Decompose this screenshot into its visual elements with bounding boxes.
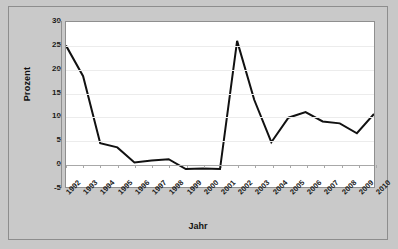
x-tick-mark [238,165,239,168]
gridline [66,94,374,95]
x-tick-mark [359,165,360,168]
x-tick-mark [307,165,308,168]
x-tick-mark [187,165,188,168]
y-tick-mark [57,21,61,22]
x-tick-mark [66,165,67,168]
x-tick-mark [100,165,101,168]
y-tick-mark [57,188,61,189]
y-axis-line [61,21,62,188]
gridline [66,117,374,118]
plot-inner [66,22,374,187]
x-tick-mark [290,165,291,168]
chart-frame: Prozent 302520151050-5 19921993199419951… [8,6,388,240]
y-axis-tick-labels: 302520151050-5 [27,21,61,188]
x-axis-tick-labels: 1992199319941995199619971998199920002001… [65,190,375,224]
x-tick-mark [204,165,205,168]
x-tick-mark [376,165,377,168]
x-tick-mark [152,165,153,168]
x-tick-mark [83,165,84,168]
y-tick-mark [57,45,61,46]
x-tick-mark [255,165,256,168]
plot-area [65,21,375,188]
series-line-prozent [66,41,374,169]
y-tick-mark [57,116,61,117]
x-tick-mark [135,165,136,168]
gridline [66,141,374,142]
x-tick-mark [118,165,119,168]
y-tick-mark [57,164,61,165]
x-tick-mark [324,165,325,168]
gridline [66,46,374,47]
zero-axis-line [66,165,374,166]
x-tick-mark [221,165,222,168]
y-tick-mark [57,69,61,70]
y-tick-mark [57,93,61,94]
x-tick-label: 2010 [374,178,392,196]
x-axis-title: Jahr [9,221,387,231]
x-tick-mark [342,165,343,168]
y-tick-mark [57,140,61,141]
x-tick-mark [169,165,170,168]
x-tick-mark [273,165,274,168]
gridline [66,70,374,71]
